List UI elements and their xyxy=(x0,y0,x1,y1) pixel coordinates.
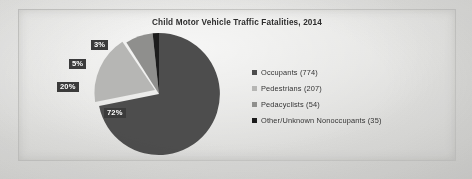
photographed-page: Child Motor Vehicle Traffic Fatalities, … xyxy=(0,0,472,179)
legend-item-label: Occupants (774) xyxy=(261,68,318,77)
page-title: Child Motor Vehicle Traffic Fatalities, … xyxy=(19,18,455,27)
legend-swatch-icon xyxy=(252,70,257,75)
data-label-occupants: 72% xyxy=(104,108,126,118)
chart-legend: Occupants (774) Pedestrians (207) Pedacy… xyxy=(252,64,448,128)
legend-swatch-icon xyxy=(252,102,257,107)
chart-card: Child Motor Vehicle Traffic Fatalities, … xyxy=(18,9,456,161)
legend-item-label: Pedestrians (207) xyxy=(261,84,322,93)
data-label-other-nonoccupants: 3% xyxy=(91,40,108,50)
legend-item-pedacyclists[interactable]: Pedacyclists (54) xyxy=(252,96,448,112)
pie-chart: 72% 20% 5% 3% xyxy=(47,32,243,156)
legend-item-label: Other/Unknown Nonoccupants (35) xyxy=(261,116,382,125)
legend-item-pedestrians[interactable]: Pedestrians (207) xyxy=(252,80,448,96)
legend-item-occupants[interactable]: Occupants (774) xyxy=(252,64,448,80)
pie-chart-svg xyxy=(47,32,243,156)
legend-swatch-icon xyxy=(252,86,257,91)
data-label-pedestrians: 20% xyxy=(57,82,79,92)
legend-swatch-icon xyxy=(252,118,257,123)
legend-item-label: Pedacyclists (54) xyxy=(261,100,320,109)
legend-item-other-nonoccupants[interactable]: Other/Unknown Nonoccupants (35) xyxy=(252,112,448,128)
data-label-pedacyclists: 5% xyxy=(69,59,86,69)
